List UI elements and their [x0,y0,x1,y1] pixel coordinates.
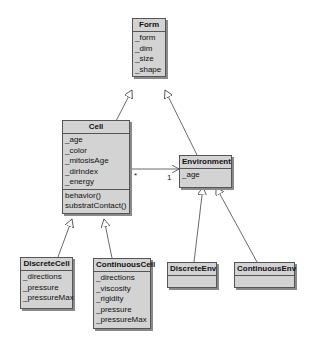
methods: behavior() substratContact() [63,189,129,213]
attribute: _directions [96,273,148,284]
class-name: DiscreteEnv [168,263,216,276]
attribute: _age [65,135,127,146]
class-cell[interactable]: Cell _age _color _mitosisAge _dirIndex _… [62,120,130,214]
attribute: _rigidity [96,294,148,305]
attribute: _pressureMax [96,315,148,326]
generalization-discretecell-cell [58,219,72,257]
class-name: Environment [180,156,231,169]
class-environment[interactable]: Environment _age [179,155,232,188]
class-name: Cell [63,121,129,134]
attribute: _pressure [96,305,148,316]
class-name: DiscreteCell [21,258,72,271]
attribute: _dim [135,44,163,55]
class-form[interactable]: Form _form _dim _size _shape [132,18,166,77]
attribute: _form [135,33,163,44]
attribute: _shape [135,65,163,76]
generalization-discreteenv-environment [194,187,203,262]
attribute: _pressureMax [23,293,70,304]
attribute: _pressure [23,283,70,294]
method: substratContact() [65,201,127,212]
generalization-continuouscell-cell [104,219,112,258]
attributes: _age _color _mitosisAge _dirIndex _energ… [63,134,129,189]
attribute: _dirIndex [65,167,127,178]
attributes: _directions _viscosity _rigidity _pressu… [94,272,150,328]
attribute: _mitosisAge [65,156,127,167]
class-discreteenv[interactable]: DiscreteEnv [167,262,217,288]
attribute: _viscosity [96,284,148,295]
method: behavior() [65,191,127,202]
attribute: _size [135,54,163,65]
class-name: ContinuousEnv [235,263,294,276]
attribute: _directions [23,272,70,283]
class-continuousenv[interactable]: ContinuousEnv [234,262,295,288]
attributes [168,276,216,287]
attribute: _color [65,146,127,157]
attribute: _age [182,170,229,181]
class-name: Form [133,19,165,32]
attributes: _directions _pressure _pressureMax [21,271,72,308]
class-discretecell[interactable]: DiscreteCell _directions _pressure _pres… [20,257,73,309]
generalization-continuousenv-environment [216,187,257,262]
class-name: ContinuousCell [94,259,150,272]
generalization-environment-form [165,90,197,155]
multiplicity-many: * [134,171,137,180]
attribute: _energy [65,177,127,188]
attributes [235,276,294,287]
attributes: _form _dim _size _shape [133,32,165,76]
multiplicity-one: 1 [167,173,171,182]
class-continuouscell[interactable]: ContinuousCell _directions _viscosity _r… [93,258,151,329]
attributes: _age [180,169,231,187]
generalization-cell-form [116,90,132,121]
